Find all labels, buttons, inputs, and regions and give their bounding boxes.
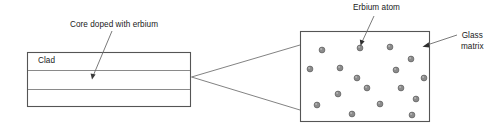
erbium-atom-highlight	[338, 66, 340, 68]
erbium-atom	[398, 85, 404, 91]
erbium-atom-highlight	[355, 76, 357, 78]
erbium-atom-highlight	[315, 103, 317, 105]
erbium-atom	[393, 67, 399, 73]
erbium-atom	[387, 44, 393, 50]
erbium-atom-highlight	[394, 68, 396, 70]
diagram-canvas: Core doped with erbium Clad Erbium atom …	[0, 0, 500, 136]
erbium-atom-highlight	[336, 92, 338, 94]
erbium-atom	[314, 102, 320, 108]
erbium-atom	[337, 65, 343, 71]
erbium-atom-label: Erbium atom	[353, 3, 400, 14]
erbium-atom-highlight	[409, 57, 411, 59]
erbium-atom	[408, 56, 414, 62]
erbium-atom	[349, 111, 355, 117]
clad-label: Clad	[38, 56, 55, 67]
erbium-atom-highlight	[365, 86, 367, 88]
expansion-line-bottom	[192, 77, 301, 110]
glass-matrix-outline	[301, 32, 430, 122]
glass-matrix-label: Glass matrix	[461, 31, 484, 52]
erbium-atom	[357, 45, 363, 51]
erbium-atom	[307, 66, 313, 72]
erbium-atom-highlight	[320, 48, 322, 50]
erbium-atom	[421, 75, 427, 81]
erbium-atom	[319, 47, 325, 53]
erbium-atom	[335, 91, 341, 97]
erbium-atom-highlight	[414, 97, 416, 99]
erbium-atom-highlight	[358, 46, 360, 48]
glass-matrix-leader-line	[427, 35, 457, 45]
erbium-atom-highlight	[410, 113, 412, 115]
erbium-atom	[413, 96, 419, 102]
erbium-atom	[354, 75, 360, 81]
erbium-atom-highlight	[350, 112, 352, 114]
erbium-atom-highlight	[422, 76, 424, 78]
expansion-line-top	[192, 45, 301, 77]
glass-matrix-label-line1: Glass	[461, 31, 484, 42]
core-doped-label: Core doped with erbium	[70, 20, 158, 31]
erbium-atom-highlight	[308, 67, 310, 69]
erbium-atom	[409, 112, 415, 118]
erbium-atom-highlight	[399, 86, 401, 88]
glass-matrix-label-line2: matrix	[461, 42, 484, 53]
erbium-atom-highlight	[388, 45, 390, 47]
erbium-atom	[377, 101, 383, 107]
erbium-atom-highlight	[378, 102, 380, 104]
erbium-atom	[364, 85, 370, 91]
